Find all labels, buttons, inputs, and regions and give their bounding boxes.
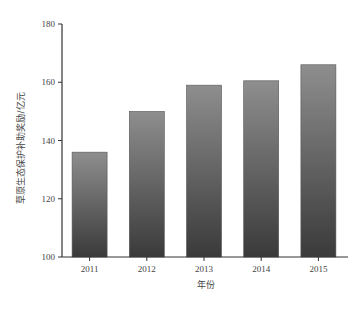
x-tick-label: 2014 bbox=[252, 264, 271, 274]
bar-2014 bbox=[244, 81, 279, 257]
bar-2015 bbox=[301, 65, 336, 257]
bar-2013 bbox=[187, 85, 222, 257]
y-tick-label: 180 bbox=[42, 19, 56, 29]
y-tick-label: 100 bbox=[42, 252, 56, 262]
y-tick-label: 140 bbox=[42, 136, 56, 146]
x-tick-label: 2011 bbox=[81, 264, 99, 274]
x-tick-label: 2013 bbox=[195, 264, 214, 274]
x-axis: 20112012201320142015 bbox=[62, 257, 348, 274]
y-axis: 100120140160180 bbox=[42, 19, 63, 262]
x-tick-label: 2015 bbox=[309, 264, 328, 274]
y-axis-title: 草原生态保护补助奖励/亿元 bbox=[15, 92, 26, 203]
x-tick-label: 2012 bbox=[138, 264, 156, 274]
bar-2011 bbox=[72, 152, 107, 257]
bar-2012 bbox=[129, 111, 164, 257]
x-axis-title: 年份 bbox=[197, 279, 215, 290]
y-tick-label: 120 bbox=[42, 194, 56, 204]
bars-group bbox=[72, 65, 336, 257]
y-tick-label: 160 bbox=[42, 77, 56, 87]
bar-chart: 100120140160180 20112012201320142015 年份 … bbox=[0, 0, 363, 309]
